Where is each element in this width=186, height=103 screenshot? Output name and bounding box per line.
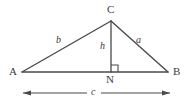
geometry-figure: A B C N b a h c [0,0,186,103]
segment-side-b [22,21,111,72]
altitude-label-h: h [100,41,105,51]
side-label-a: a [136,35,141,45]
dimension-arrow-left-icon [23,90,31,95]
dimension-label-c: c [91,87,95,97]
right-angle-marker [111,65,118,72]
vertex-label-b: B [173,66,180,77]
dimension-arrow-right-icon [162,90,170,95]
vertex-label-n: N [106,74,114,85]
vertex-label-c: C [107,4,114,15]
side-label-b: b [56,35,61,45]
vertex-label-a: A [9,66,17,77]
segment-side-a [111,21,168,72]
